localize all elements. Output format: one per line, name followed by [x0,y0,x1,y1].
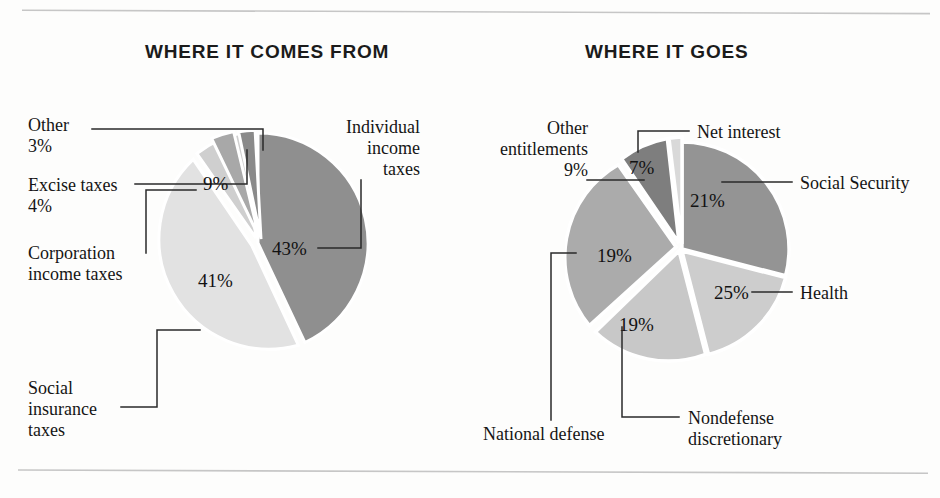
right-chart-title: WHERE IT GOES [585,41,748,63]
value-label-43: 43% [272,238,307,260]
value-label-19-defense: 19% [597,245,632,267]
callout-label-nondefense-discretionary: Nondefense discretionary [688,408,782,450]
callout-label-corporation-income-taxes: Corporation income taxes [28,243,122,285]
top-divider-rule [0,8,940,10]
callout-label-individual-income-taxes: Individual income taxes [330,117,420,180]
value-label-41: 41% [198,270,233,292]
callout-label-social-insurance-taxes: Social insurance taxes [28,378,97,441]
callout-label-social-security: Social Security [800,173,909,194]
callout-label-other-entitlements: Other entitlements 9% [470,118,588,181]
value-label-21: 21% [690,190,725,212]
callout-label-national-defense: National defense [483,424,604,445]
value-label-7: 7% [629,157,654,179]
left-chart-title: WHERE IT COMES FROM [145,41,389,63]
bottom-divider-rule [0,468,940,470]
value-label-19-nondefense: 19% [619,314,654,336]
value-label-25: 25% [714,282,749,304]
value-label-9: 9% [203,173,228,195]
callout-label-health: Health [800,283,848,304]
callout-label-net-interest: Net interest [697,122,780,143]
figure-page: WHERE IT COMES FROM WHERE IT GOES [0,0,940,498]
callout-label-excise-taxes: Excise taxes 4% [28,175,117,217]
callout-label-other: Other 3% [28,115,69,157]
